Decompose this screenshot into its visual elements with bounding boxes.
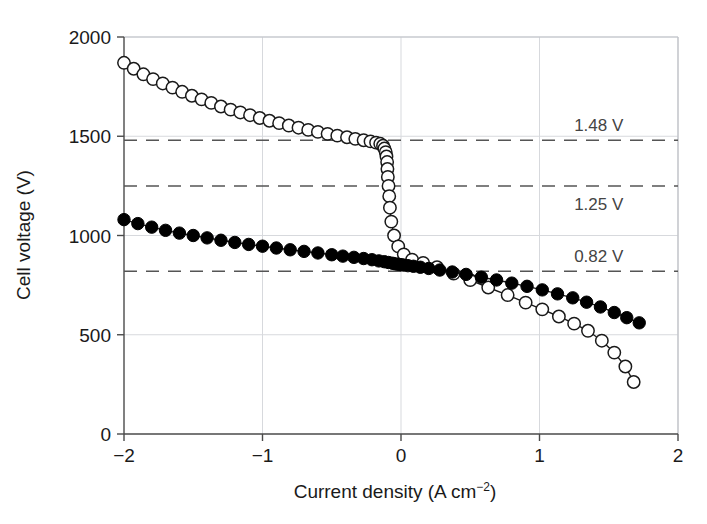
data-point-filled <box>118 213 130 225</box>
data-point-filled <box>337 250 349 262</box>
data-point-filled <box>490 274 502 286</box>
data-point-filled <box>159 224 171 236</box>
data-point-filled <box>506 277 518 289</box>
x-tick-label: −2 <box>113 445 135 466</box>
x-axis-title: Current density (A cm−2) <box>294 480 497 502</box>
data-point-filled <box>594 301 606 313</box>
data-point-filled <box>132 217 144 229</box>
data-point-filled <box>567 292 579 304</box>
data-point-open <box>619 360 631 372</box>
data-point-filled <box>621 311 633 323</box>
data-point-open <box>385 215 397 227</box>
data-point-filled <box>475 271 487 283</box>
data-point-filled <box>608 306 620 318</box>
y-tick-label: 2000 <box>69 27 111 48</box>
data-point-open <box>536 303 548 315</box>
data-point-filled <box>580 296 592 308</box>
x-tick-label: −1 <box>252 445 274 466</box>
x-tick-label: 2 <box>673 445 684 466</box>
data-point-filled <box>312 247 324 259</box>
x-tick-label: 1 <box>534 445 545 466</box>
data-point-filled <box>446 266 458 278</box>
data-point-filled <box>536 284 548 296</box>
data-point-open <box>627 376 639 388</box>
data-point-filled <box>270 242 282 254</box>
y-axis-title: Cell voltage (V) <box>13 170 34 300</box>
data-point-open <box>596 335 608 347</box>
data-point-filled <box>256 240 268 252</box>
data-point-filled <box>229 236 241 248</box>
data-point-open <box>608 346 620 358</box>
y-tick-label: 1000 <box>69 226 111 247</box>
chart-figure: 0500100015002000−2−1012 1.48 V1.25 V0.82… <box>0 0 707 524</box>
data-point-filled <box>284 244 296 256</box>
data-point-filled <box>201 232 213 244</box>
data-point-filled <box>215 234 227 246</box>
data-point-open <box>553 310 565 322</box>
data-point-filled <box>521 280 533 292</box>
data-point-filled <box>633 317 645 329</box>
data-point-filled <box>242 238 254 250</box>
data-point-filled <box>434 264 446 276</box>
annotation-label: 1.48 V <box>574 116 624 135</box>
annotation-label: 0.82 V <box>574 247 624 266</box>
data-point-open <box>568 317 580 329</box>
x-tick-label: 0 <box>396 445 407 466</box>
y-tick-label: 0 <box>100 424 111 445</box>
annotation-label: 1.25 V <box>574 195 624 214</box>
cell-voltage-vs-current-density-chart: 0500100015002000−2−1012 1.48 V1.25 V0.82… <box>0 0 707 524</box>
y-tick-label: 1500 <box>69 126 111 147</box>
data-point-open <box>519 296 531 308</box>
data-point-filled <box>298 245 310 257</box>
data-point-filled <box>326 249 338 261</box>
data-point-filled <box>146 221 158 233</box>
data-point-filled <box>551 288 563 300</box>
y-tick-label: 500 <box>79 325 111 346</box>
data-point-open <box>383 190 395 202</box>
data-point-filled <box>187 229 199 241</box>
data-point-filled <box>460 268 472 280</box>
data-point-open <box>501 289 513 301</box>
data-point-filled <box>173 227 185 239</box>
data-point-filled <box>423 262 435 274</box>
data-point-open <box>582 325 594 337</box>
data-point-open <box>384 202 396 214</box>
